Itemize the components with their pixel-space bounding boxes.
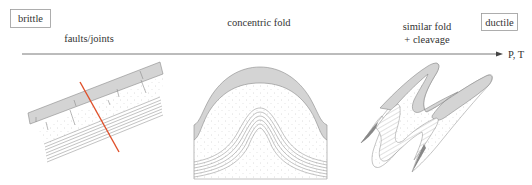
faults-joints-label: faults/joints (64, 33, 114, 44)
pressure-temperature-axis: P, T (22, 49, 525, 60)
concentric-fold-illustration (194, 67, 327, 179)
ductile-label: ductile (485, 17, 514, 28)
brittle-ductile-diagram: brittle ductile P, T faults/joints conce… (0, 0, 532, 185)
brittle-label-box: brittle (11, 10, 51, 28)
cleavage-label: + cleavage (404, 34, 450, 45)
arrowhead-icon (496, 52, 503, 57)
similar-fold-label: similar fold (403, 21, 452, 32)
similar-fold-illustration (361, 63, 493, 172)
ductile-label-box: ductile (482, 14, 518, 31)
faults-joints-illustration (28, 62, 165, 162)
concentric-fold-label: concentric fold (227, 17, 291, 28)
axis-label: P, T (508, 49, 525, 60)
brittle-label: brittle (18, 13, 43, 24)
